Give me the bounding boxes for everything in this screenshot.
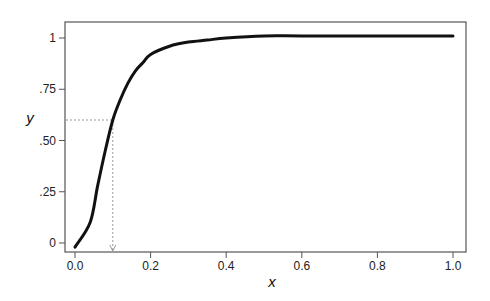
- chart: 0.25.50.751 0.00.20.40.60.81.0 x y: [0, 0, 490, 301]
- x-tick-label: 0.4: [218, 259, 235, 273]
- x-tick-label: 1.0: [445, 259, 462, 273]
- y-axis-title: y: [25, 109, 35, 126]
- x-tick-label: 0.0: [67, 259, 84, 273]
- y-tick-label: 1: [49, 31, 56, 45]
- y-axis: 0.25.50.751: [39, 31, 65, 250]
- y-tick-label: .75: [39, 82, 56, 96]
- y-tick-label: 0: [49, 236, 56, 250]
- y-tick-label: .50: [39, 134, 56, 148]
- x-axis: 0.00.20.40.60.81.0: [67, 252, 462, 273]
- x-tick-label: 0.8: [369, 259, 386, 273]
- x-axis-title: x: [267, 273, 276, 290]
- plot-frame: [65, 22, 466, 252]
- y-tick-label: .25: [39, 185, 56, 199]
- x-tick-label: 0.2: [142, 259, 159, 273]
- x-tick-label: 0.6: [293, 259, 310, 273]
- data-line: [75, 36, 453, 247]
